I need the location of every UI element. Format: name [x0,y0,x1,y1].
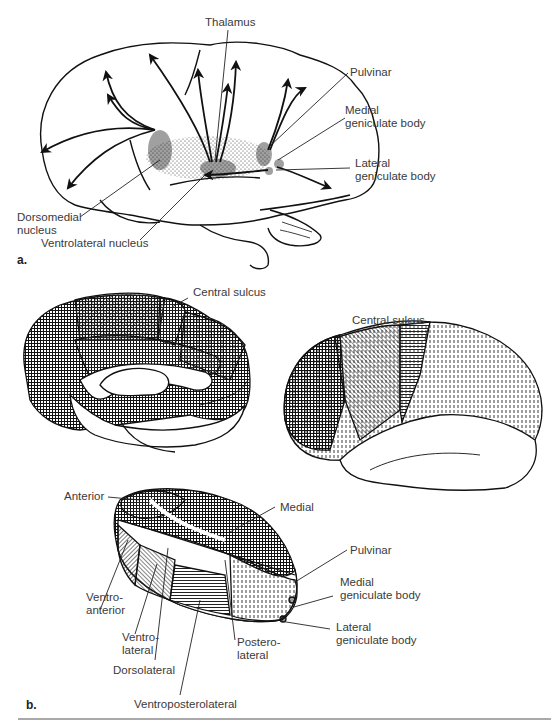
label-medial-geniculate-a-line2: geniculate body [345,117,426,130]
label-central-sulcus-medial: Central sulcus [193,286,266,299]
label-medial-geniculate-a-line1: Medial [345,104,379,117]
label-thalamus: Thalamus [205,16,256,29]
panel-b-thalamus [114,489,297,622]
label-medial-nucleus: Medial [280,501,314,514]
panel-b-lateral-brain [284,321,542,490]
label-lateral-geniculate-b-line1: Lateral [336,621,371,634]
panel-marker-b: b. [26,698,37,712]
thalamus-figure [0,0,559,725]
label-ventrolateral-line2: lateral [122,644,153,657]
label-dorsomedial-line1: Dorsomedial [17,211,82,224]
label-lateral-geniculate-b-line2: geniculate body [336,634,417,647]
label-medial-geniculate-b-line2: geniculate body [340,589,421,602]
label-pulvinar-a: Pulvinar [350,66,392,79]
label-anterior: Anterior [64,490,104,503]
label-lateral-geniculate-a-line2: geniculate body [355,170,436,183]
label-ventrolateral-line1: Ventro- [122,631,159,644]
label-posterolateral-line2: lateral [237,649,268,662]
label-ventroanterior-line2: anterior [86,604,125,617]
label-medial-geniculate-b-line1: Medial [340,576,374,589]
label-ventrolateral-nucleus: Ventrolateral nucleus [41,237,148,250]
label-dorsolateral: Dorsolateral [113,664,175,677]
panel-marker-a: a. [17,253,27,267]
label-lateral-geniculate-a-line1: Lateral [355,157,390,170]
label-central-sulcus-lateral: Central sulcus [352,314,425,327]
label-pulvinar-b: Pulvinar [350,544,392,557]
label-ventroposterolateral: Ventroposterolateral [134,698,237,711]
label-ventroanterior-line1: Ventro- [86,591,123,604]
label-posterolateral-line1: Postero- [237,636,280,649]
label-dorsomedial-line2: nucleus [17,224,57,237]
panel-b-medial-brain [24,293,250,452]
bottom-rule-right [250,718,551,720]
